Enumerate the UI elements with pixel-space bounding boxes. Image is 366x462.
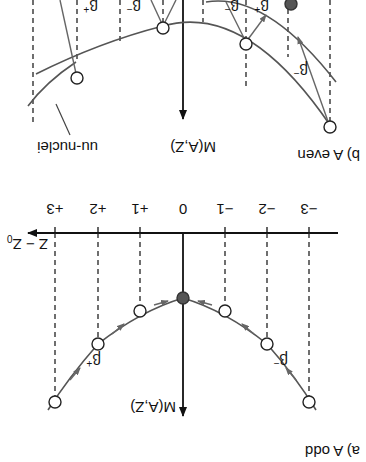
- tick-label: 0: [179, 201, 187, 218]
- nuclide-node: [49, 396, 61, 408]
- nuclide-node: [92, 338, 104, 350]
- panel-b-uu-parabola-right: [28, 62, 76, 106]
- tick-label: −2: [258, 201, 275, 218]
- panel-a-dashed-guides: [55, 233, 309, 396]
- nuclide-node: [157, 22, 169, 34]
- figure-rotated-group: a) A odd M(A,Z) Z − Z0 −3 −2 −1 0: [7, 0, 360, 460]
- mass-parabola-figure: a) A odd M(A,Z) Z − Z0 −3 −2 −1 0: [0, 0, 366, 462]
- panel-b-title: b) A even: [297, 147, 360, 164]
- nuclide-node: [134, 305, 146, 317]
- nuclide-node: [240, 38, 252, 50]
- nuclide-node: [219, 305, 231, 317]
- tick-label: −3: [300, 201, 317, 218]
- nuclide-node: [324, 121, 336, 133]
- panel-a-beta-plus-label: β+: [86, 351, 101, 369]
- panel-a-nuclide-nodes: [49, 292, 315, 408]
- panel-b-beta-minus-label: β−: [293, 61, 308, 79]
- panel-b-beta-plus-label-2: β+: [83, 0, 98, 15]
- panel-a: a) A odd M(A,Z) Z − Z0 −3 −2 −1 0: [7, 201, 360, 460]
- tick-label: −1: [216, 201, 233, 218]
- tick-label: +3: [46, 201, 63, 218]
- nuclide-node: [261, 338, 273, 350]
- panel-a-title: a) A odd: [305, 443, 360, 460]
- panel-a-mass-axis-label: M(A,Z): [130, 399, 176, 416]
- uu-nuclei-leader-line: [56, 104, 70, 135]
- tick-label: +1: [131, 201, 148, 218]
- stable-nuclide-node: [285, 0, 297, 10]
- panel-b-beta-minus-label-3: β−: [126, 0, 141, 15]
- panel-b-decay-transitions: [60, 0, 330, 127]
- nuclide-node: [303, 396, 315, 408]
- stable-nuclide-node: [177, 292, 189, 304]
- panel-b-dashed-guides: [33, 0, 330, 122]
- panel-b-uu-nuclei-label: uu-nuclei: [37, 139, 98, 156]
- panel-b-beta-plus-label: β+: [254, 0, 269, 15]
- panel-b: b) A even M(A,Z) uu-nuclei: [28, 0, 360, 164]
- panel-b-mass-axis-label: M(A,Z): [170, 139, 216, 156]
- panel-a-mass-parabola: [48, 298, 316, 410]
- panel-a-z-axis-label: Z − Z0: [7, 233, 48, 253]
- panel-a-tick-labels: −3 −2 −1 0 +1 +2 +3: [46, 201, 317, 218]
- nuclide-node: [71, 72, 83, 84]
- tick-label: +2: [89, 201, 106, 218]
